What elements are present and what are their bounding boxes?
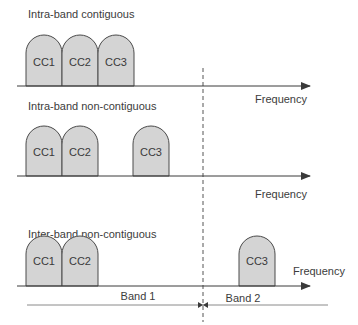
scenario-label: Intra-band non-contiguous [28,100,157,112]
component-carrier: CC1 [26,236,62,286]
band-boundary-left-arrow-icon [198,302,203,308]
carrier-label: CC3 [105,56,127,68]
component-carrier: CC2 [62,126,98,176]
band-boundary-right-arrow-icon [203,302,208,308]
carrier-label: CC1 [33,255,55,267]
component-carrier: CC2 [62,236,98,286]
band-1-label: Band 1 [121,290,156,302]
carrier-aggregation-diagram: Intra-band contiguous CC1 CC2 CC3 Freque… [0,0,358,325]
carrier-label: CC2 [69,146,91,158]
component-carrier: CC1 [26,35,62,86]
carrier-label: CC1 [33,146,55,158]
band-indicator: Band 1 Band 2 [27,290,328,308]
scenario-inter-band-non-contiguous: Inter-band non-contiguous CC1 CC2 CC3 Fr… [17,228,345,286]
component-carrier: CC3 [239,236,275,286]
frequency-label: Frequency [255,188,307,200]
band-2-label: Band 2 [226,292,261,304]
scenario-label: Intra-band contiguous [28,8,135,20]
component-carrier: CC1 [26,126,62,176]
component-carrier: CC2 [62,35,98,86]
frequency-label: Frequency [293,265,345,277]
scenario-intra-band-non-contiguous: Intra-band non-contiguous CC1 CC2 CC3 Fr… [17,100,310,200]
component-carrier: CC3 [98,35,134,86]
carrier-label: CC2 [69,56,91,68]
carrier-label: CC3 [140,146,162,158]
carrier-label: CC2 [69,255,91,267]
carrier-label: CC1 [33,56,55,68]
frequency-label: Frequency [255,93,307,105]
scenario-intra-band-contiguous: Intra-band contiguous CC1 CC2 CC3 Freque… [17,8,310,105]
component-carrier: CC3 [133,126,169,176]
carrier-label: CC3 [246,255,268,267]
